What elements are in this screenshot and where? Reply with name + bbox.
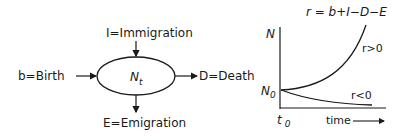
y-axis-label: N [266, 27, 275, 41]
x-axis-label: time [326, 114, 351, 127]
growth-curve [281, 25, 366, 90]
node-label: Nt [130, 70, 143, 87]
emigration-label: E=Emigration [103, 116, 186, 130]
birth-label: b=Birth [18, 69, 64, 83]
x0-label: t0 [277, 113, 291, 129]
y0-label: N0 [261, 84, 276, 100]
decay-curve-label: r<0 [351, 89, 372, 102]
immigration-label: I=Immigration [106, 26, 193, 40]
growth-curve-label: r>0 [362, 42, 383, 55]
equation: r = b+I−D−E [306, 5, 387, 19]
death-label: D=Death [199, 69, 255, 83]
population-diagram: Nt b=Birth I=Immigration D=Death E=Emigr… [0, 0, 409, 139]
